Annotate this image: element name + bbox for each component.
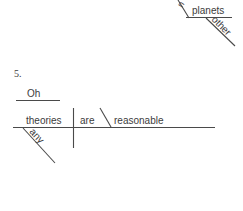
cropped-diagram-top: n planets other (175, 0, 235, 46)
predicate-complement-divider (100, 108, 111, 127)
interjection-word: Oh (27, 88, 40, 99)
exercise-5: 5. Oh theories are reasonable any (13, 68, 215, 163)
cropped-fragment-text: n (175, 0, 186, 9)
subject-word: theories (26, 115, 62, 126)
verb-word: are (80, 115, 95, 126)
predicate-adjective-word: reasonable (114, 115, 164, 126)
subject-modifier-word: any (28, 126, 47, 145)
exercise-number: 5. (14, 68, 22, 79)
sentence-diagram-canvas: n planets other 5. Oh theories are reaso… (0, 0, 243, 211)
